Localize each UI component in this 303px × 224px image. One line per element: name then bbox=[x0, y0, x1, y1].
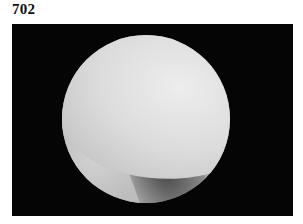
scope-field-of-view bbox=[62, 35, 230, 203]
figure-number: 702 bbox=[12, 1, 35, 18]
endoscopic-image-frame bbox=[12, 24, 293, 216]
